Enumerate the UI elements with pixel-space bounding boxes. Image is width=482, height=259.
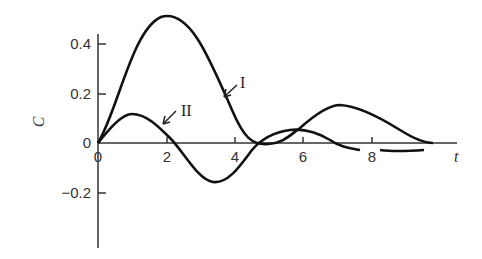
svg-text:I: I <box>240 74 245 91</box>
curve-II <box>98 114 360 182</box>
y-tick-label: 0.4 <box>70 35 91 52</box>
curve-I-label: I <box>224 74 245 97</box>
svg-text:II: II <box>181 102 192 119</box>
y-axis-label: C <box>30 116 47 127</box>
x-tick-label: 4 <box>231 148 239 165</box>
x-tick-label: 6 <box>299 148 307 165</box>
curve-II-label: II <box>163 102 192 124</box>
y-tick-label: 0.2 <box>70 85 91 102</box>
curve-II-tail <box>380 150 424 151</box>
x-tick-label: 2 <box>163 148 171 165</box>
y-tick-label: −0.2 <box>61 184 91 201</box>
x-tick-label: 0 <box>94 148 102 165</box>
x-tick-label: 8 <box>368 148 376 165</box>
curve-I <box>98 16 433 144</box>
x-axis-label: t <box>454 148 459 165</box>
chart: 0.4 0.2 0 −0.2 0 2 4 6 8 t C I II <box>0 0 482 259</box>
y-tick-label: 0 <box>83 134 91 151</box>
